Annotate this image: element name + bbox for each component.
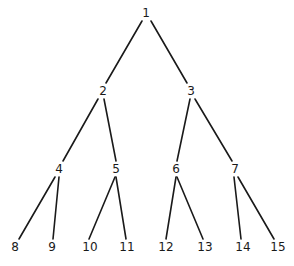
edge-6-13 xyxy=(177,177,203,239)
edge-2-5 xyxy=(104,99,116,161)
tree-svg: 123456789101112131415 xyxy=(0,0,294,266)
edge-6-12 xyxy=(166,177,176,239)
node-6: 6 xyxy=(172,162,180,176)
node-11: 11 xyxy=(119,240,134,254)
edges-group xyxy=(19,21,274,239)
node-7: 7 xyxy=(231,162,239,176)
edge-7-15 xyxy=(238,177,274,239)
tree-diagram: 123456789101112131415 xyxy=(0,0,294,266)
node-12: 12 xyxy=(158,240,173,254)
node-9: 9 xyxy=(48,240,56,254)
edge-1-3 xyxy=(151,21,187,83)
nodes-group: 123456789101112131415 xyxy=(11,6,285,254)
node-15: 15 xyxy=(270,240,285,254)
node-5: 5 xyxy=(112,162,120,176)
edge-3-7 xyxy=(195,99,232,161)
edge-2-4 xyxy=(63,99,98,161)
node-2: 2 xyxy=(99,84,107,98)
edge-5-10 xyxy=(89,177,115,239)
edge-4-9 xyxy=(53,177,59,239)
edge-1-2 xyxy=(106,21,142,83)
node-4: 4 xyxy=(55,162,63,176)
node-8: 8 xyxy=(11,240,19,254)
node-13: 13 xyxy=(197,240,212,254)
node-14: 14 xyxy=(235,240,250,254)
edge-5-11 xyxy=(116,177,126,239)
node-10: 10 xyxy=(82,240,97,254)
node-1: 1 xyxy=(142,6,150,20)
edge-3-6 xyxy=(177,99,190,161)
edge-7-14 xyxy=(234,177,241,239)
node-3: 3 xyxy=(187,84,195,98)
edge-4-8 xyxy=(19,177,55,239)
